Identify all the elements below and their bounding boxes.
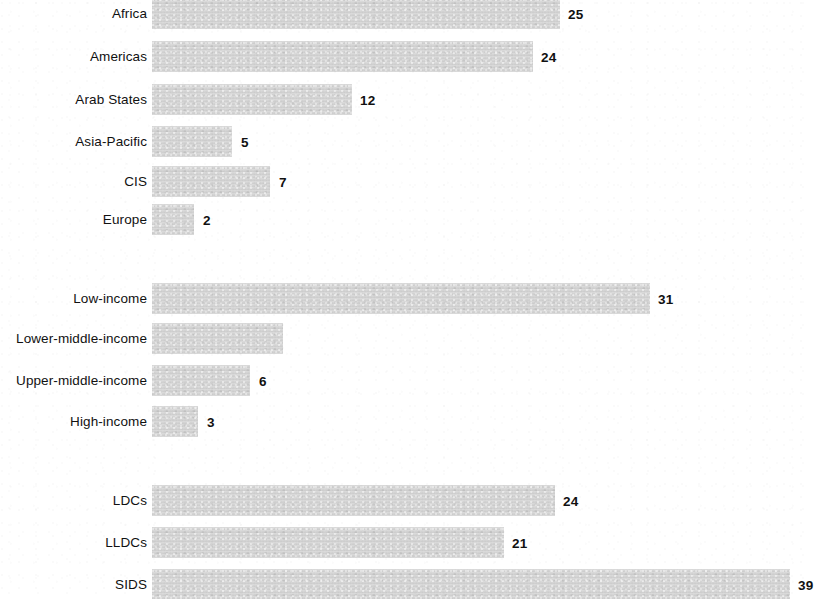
bar-category-label: Europe [0, 213, 147, 227]
bar [152, 527, 504, 558]
bar-value-label: 7 [279, 176, 287, 190]
bar-value-label: 24 [563, 495, 578, 509]
bar [152, 84, 352, 115]
bar-category-label: Lower-middle-income [0, 332, 147, 346]
bar-value-label: 2 [203, 214, 211, 228]
bar-value-label: 6 [259, 375, 267, 389]
bar-chart: Africa25Americas24Arab States12Asia-Paci… [0, 0, 815, 599]
bar-value-label: 3 [207, 416, 215, 430]
bar-category-label: LDCs [0, 494, 147, 508]
bar [152, 406, 198, 437]
bar-value-label: 25 [568, 8, 583, 22]
bar [152, 166, 270, 197]
bar-category-label: Upper-middle-income [0, 374, 147, 388]
bar [152, 323, 283, 354]
bar [152, 365, 250, 396]
bar [152, 283, 650, 314]
bar-value-label: 31 [658, 293, 673, 307]
bar-value-label: 5 [241, 136, 249, 150]
bar-category-label: High-income [0, 415, 147, 429]
bar-value-label: 24 [541, 51, 556, 65]
bar-category-label: Americas [0, 50, 147, 64]
bar-value-label: 21 [512, 537, 527, 551]
bar-category-label: Africa [0, 7, 147, 21]
bar-value-label: 39 [798, 579, 813, 593]
bar-category-label: Asia-Pacific [0, 135, 147, 149]
bar [152, 41, 533, 72]
bar [152, 485, 555, 516]
bar-category-label: Arab States [0, 93, 147, 107]
bar-value-label: 12 [360, 94, 375, 108]
bar-category-label: LLDCs [0, 536, 147, 550]
bar-category-label: Low-income [0, 292, 147, 306]
bar [152, 569, 790, 599]
bar [152, 0, 560, 29]
bar-category-label: SIDS [0, 578, 147, 592]
bar [152, 126, 232, 157]
bar [152, 204, 194, 235]
bar-category-label: CIS [0, 175, 147, 189]
